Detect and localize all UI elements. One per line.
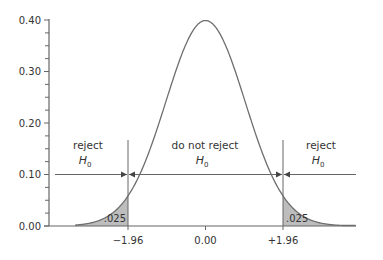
y-tick-label: 0.40 bbox=[19, 15, 41, 26]
region-label-left: reject bbox=[73, 139, 103, 151]
y-axis: 0.000.100.200.300.40 bbox=[19, 15, 49, 232]
h0-label-left: H0 bbox=[79, 154, 92, 169]
left-area-label: .025 bbox=[104, 213, 126, 224]
x-tick-label: +1.96 bbox=[268, 235, 299, 246]
region-label-middle: do not reject bbox=[172, 139, 239, 151]
arrow-left-icon bbox=[284, 172, 290, 178]
x-tick-label: −1.96 bbox=[113, 235, 144, 246]
normal-distribution-chart: 0.000.100.200.300.40 −1.960.00+1.96 reje… bbox=[0, 0, 383, 260]
y-tick-label: 0.30 bbox=[19, 66, 41, 77]
arrow-left-icon bbox=[129, 172, 135, 178]
arrow-right-icon bbox=[276, 172, 282, 178]
region-label-right: reject bbox=[306, 139, 336, 151]
x-tick-label: 0.00 bbox=[194, 235, 216, 246]
normal-curve bbox=[75, 21, 356, 226]
h0-label-middle: H0 bbox=[196, 154, 209, 169]
y-tick-label: 0.00 bbox=[19, 221, 41, 232]
x-axis: −1.960.00+1.96 bbox=[44, 226, 356, 246]
h0-label-right: H0 bbox=[312, 154, 325, 169]
right-area-label: .025 bbox=[286, 213, 308, 224]
y-tick-label: 0.10 bbox=[19, 169, 41, 180]
arrow-right-icon bbox=[121, 172, 127, 178]
y-tick-label: 0.20 bbox=[19, 118, 41, 129]
region-arrows bbox=[55, 172, 356, 178]
critical-value-lines bbox=[128, 140, 283, 226]
